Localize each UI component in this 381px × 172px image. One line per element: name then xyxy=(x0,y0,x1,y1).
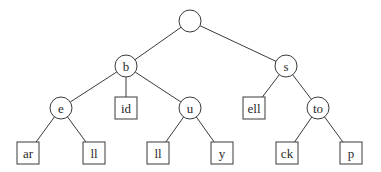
leaf-node-ar: ar xyxy=(17,142,39,164)
leaf-node-ck: ck xyxy=(276,142,298,164)
internal-node-root xyxy=(179,10,201,32)
node-label: p xyxy=(348,146,355,161)
node-label: e xyxy=(58,101,64,116)
node-label: u xyxy=(187,101,194,116)
node-label: ar xyxy=(23,146,34,161)
node-label: ll xyxy=(154,146,162,161)
internal-node-s: s xyxy=(275,55,297,77)
node-label: to xyxy=(313,101,323,116)
edge-u-y xyxy=(196,117,214,142)
edge-u-u-ll xyxy=(166,117,184,142)
edge-s-ell xyxy=(262,75,279,97)
leaf-node-ell: ell xyxy=(243,97,265,119)
leaf-node-id: id xyxy=(115,97,137,119)
internal-node-b: b xyxy=(115,55,137,77)
internal-node-e: e xyxy=(50,97,72,119)
edge-root-s xyxy=(200,26,276,62)
node-label: y xyxy=(219,146,226,161)
node-label: id xyxy=(121,101,132,116)
node-label: ll xyxy=(90,146,98,161)
edges xyxy=(36,26,343,142)
node-label: ell xyxy=(248,101,261,116)
leaf-node-e-ll: ll xyxy=(83,142,105,164)
edge-s-to xyxy=(293,75,312,100)
nodes: bseiduelltoarllllyckp xyxy=(17,10,362,164)
edge-to-ck xyxy=(295,117,312,142)
edge-e-ar xyxy=(36,117,54,142)
internal-node-to: to xyxy=(307,97,329,119)
leaf-node-u-ll: ll xyxy=(147,142,169,164)
edge-e-e-ll xyxy=(68,117,86,142)
edge-to-p xyxy=(325,117,343,142)
node-label: b xyxy=(123,59,130,74)
edge-root-b xyxy=(135,27,181,59)
leaf-node-y: y xyxy=(211,142,233,164)
edge-b-u xyxy=(135,72,181,102)
node-label: s xyxy=(283,59,288,74)
node-circle xyxy=(179,10,201,32)
edge-b-e xyxy=(70,72,117,102)
internal-node-u: u xyxy=(179,97,201,119)
leaf-node-p: p xyxy=(340,142,362,164)
node-label: ck xyxy=(281,146,294,161)
trie-diagram: bseiduelltoarllllyckp xyxy=(0,0,381,172)
